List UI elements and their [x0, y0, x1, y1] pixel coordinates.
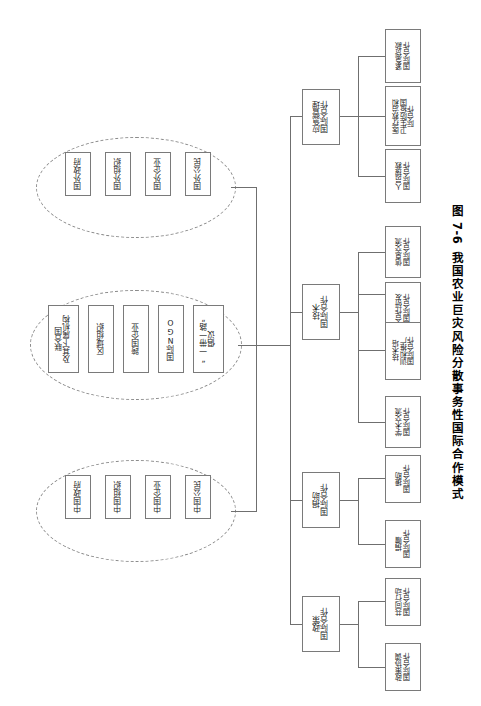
actor-label: 国外政府: [74, 158, 82, 190]
connector-foreign-stub: [231, 187, 256, 188]
connector-policy-child-2: [358, 667, 385, 668]
leaf-label-line2: 国际合作: [403, 238, 411, 266]
connector-actors-to-trunk: [256, 345, 290, 346]
actor-belt-and-road-initiative[interactable]: “一带一路” 倡议: [193, 305, 224, 373]
connector-technology-bus: [358, 252, 359, 422]
actor-chinese-enterprise[interactable]: 中国企业: [145, 475, 171, 519]
actor-international-ngo[interactable]: 国际NGO: [158, 305, 184, 373]
category-technology[interactable]: 技术 国际合作: [302, 284, 340, 340]
actor-foreign-citizen[interactable]: 国外公民: [185, 152, 211, 196]
connector-emergency-child-1: [358, 56, 385, 57]
figure-title: 我国农业巨灾风险分散事务性国际合作模式: [449, 252, 465, 501]
connector-international-stub: [238, 345, 256, 346]
leaf-search-and-rescue-cooperation[interactable]: 人员搜救 国际合作: [385, 149, 421, 203]
connector-policy-out: [340, 624, 358, 625]
connector-actor-collector: [256, 187, 257, 512]
actor-label: 中国企业: [154, 481, 162, 513]
leaf-label-line2: 国际合作: [403, 294, 411, 322]
connector-policy-child-1: [358, 601, 385, 602]
connector-technology-child-3: [358, 350, 385, 351]
leaf-label-line2: 国际合作: [403, 653, 411, 681]
leaf-training-and-extension-cooperation[interactable]: 技术培 训和推广 国际合作: [385, 322, 421, 380]
connector-chinese-stub: [231, 511, 256, 512]
category-label-line1: 捐助: [313, 484, 321, 516]
figure-canvas: 国外政府 国外组织 国外企业 国外公民 联合国 及其下属机构 区域组织 跨国企业…: [0, 0, 481, 706]
leaf-label-line2: 国际合作: [403, 588, 411, 616]
actor-foreign-government[interactable]: 国外政府: [65, 152, 91, 196]
actor-label: 区域组织: [97, 323, 105, 355]
actor-label: 中国组织: [114, 481, 122, 513]
actor-chinese-government[interactable]: 中国政府: [65, 475, 91, 519]
connector-emergency-child-3: [358, 176, 385, 177]
actor-label: 国际NGO: [167, 318, 175, 361]
leaf-policy-coordination-cooperation[interactable]: 政策协调 国际合作: [385, 643, 421, 691]
actor-multinational-enterprise[interactable]: 跨国企业: [123, 305, 149, 373]
leaf-aid-cooperation[interactable]: 援助 国际合作: [385, 455, 421, 503]
actor-chinese-organization[interactable]: 中国组织: [105, 475, 131, 519]
leaf-label-line2: 国际合作: [403, 408, 411, 436]
connector-trunk-to-policy: [290, 624, 302, 625]
actor-label: 国外组织: [114, 158, 122, 190]
leaf-joint-action-cooperation[interactable]: 共同行动 国际合作: [385, 578, 421, 626]
connector-donation-bus: [358, 478, 359, 544]
category-label-line2: 国际合作: [321, 296, 329, 328]
category-label-line1: 技术: [313, 296, 321, 328]
leaf-academic-exchange-cooperation[interactable]: 学术交流 国际合作: [385, 396, 421, 448]
category-donation[interactable]: 捐助 国际合作: [302, 472, 340, 528]
connector-technology-child-2: [358, 294, 385, 295]
leaf-label-line3: 际合作: [407, 99, 415, 134]
connector-policy-bus: [358, 601, 359, 667]
actor-un-and-agencies[interactable]: 联合国 及其下属机构: [48, 305, 79, 373]
leaf-emergency-loan-cooperation[interactable]: 紧急贷款 国际合作: [385, 29, 421, 83]
leaf-label-line2: 国际合作: [403, 162, 411, 190]
category-label-line2: 国际合作: [321, 101, 329, 133]
actor-regional-organization[interactable]: 区域组织: [88, 305, 114, 373]
actor-label: 跨国企业: [132, 323, 140, 355]
leaf-label-line2: 国际合作: [403, 465, 411, 493]
leaf-label-line2: 国际合作: [403, 42, 411, 70]
connector-trunk-to-donation: [290, 500, 302, 501]
connector-donation-child-2: [358, 544, 385, 545]
connector-donation-out: [340, 500, 358, 501]
figure-caption: 图 7-6 我国农业巨灾风险分散事务性国际合作模式: [435, 0, 479, 706]
leaf-label-line3: 国际合作: [407, 337, 415, 365]
connector-emergency-child-2: [358, 116, 385, 117]
connector-trunk-to-technology: [290, 312, 302, 313]
category-emergency-management[interactable]: 应急管理 国际合作: [302, 89, 340, 145]
connector-technology-child-1: [358, 252, 385, 253]
actor-foreign-organization[interactable]: 国外组织: [105, 152, 131, 196]
leaf-label-line2: 国际合作: [403, 530, 411, 558]
connector-donation-child-1: [358, 478, 385, 479]
actor-label-line2: 倡议: [209, 314, 217, 364]
actor-label: 中国政府: [74, 481, 82, 513]
actor-label: 中国公民: [194, 481, 202, 513]
connector-emergency-out: [340, 116, 358, 117]
actor-label-line2: 及其下属机构: [64, 315, 72, 363]
connector-technology-out: [340, 312, 358, 313]
category-label-line2: 国际合作: [321, 608, 329, 640]
leaf-medical-and-epidemic-cooperation[interactable]: 医疗救治和 卫生防疫国 际合作: [385, 86, 421, 146]
category-label-line2: 国际合作: [321, 484, 329, 516]
leaf-information-exchange-cooperation[interactable]: 信息交流 国际合作: [385, 226, 421, 278]
connector-trunk-to-emergency: [290, 116, 302, 117]
connector-technology-child-4: [358, 422, 385, 423]
leaf-donation-cooperation[interactable]: 捐赠 国际合作: [385, 520, 421, 568]
actor-chinese-citizen[interactable]: 中国公民: [185, 475, 211, 519]
actor-label: 国外企业: [154, 158, 162, 190]
connector-main-trunk: [290, 116, 291, 624]
actor-foreign-enterprise[interactable]: 国外企业: [145, 152, 171, 196]
category-label-line1: 政策: [313, 608, 321, 640]
category-label-line1: 应急管理: [313, 101, 321, 133]
category-policy[interactable]: 政策 国际合作: [302, 596, 340, 652]
figure-number: 图 7-6: [449, 205, 465, 244]
actor-label: 国外公民: [194, 158, 202, 190]
